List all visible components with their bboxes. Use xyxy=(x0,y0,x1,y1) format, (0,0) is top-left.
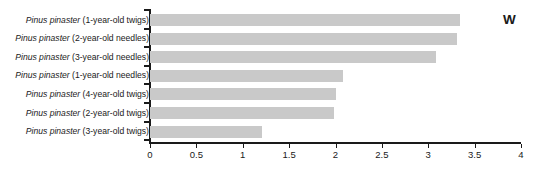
x-axis-tick-label: 2.5 xyxy=(375,149,388,160)
bar xyxy=(150,51,436,63)
x-axis-tick-label: 0.5 xyxy=(190,149,203,160)
category-qualifier: (2-year-old needles) xyxy=(70,33,149,43)
bar xyxy=(150,14,460,26)
x-axis-tick xyxy=(336,144,337,148)
x-axis-tick-label: 1 xyxy=(240,149,245,160)
x-axis-tick xyxy=(382,144,383,148)
species-name: Pinus pinaster xyxy=(26,108,80,118)
category-qualifier: (1-year-old twigs) xyxy=(80,15,149,25)
x-axis-tick xyxy=(521,144,522,148)
species-name: Pinus pinaster xyxy=(15,70,69,80)
category-qualifier: (2-year-old twigs) xyxy=(80,108,149,118)
species-name: Pinus pinaster xyxy=(15,33,69,43)
x-axis-tick-label: 3 xyxy=(426,149,431,160)
category-qualifier: (4-year-old twigs) xyxy=(80,89,149,99)
category-label: Pinus pinaster (3-year-old needles) xyxy=(15,52,149,62)
x-axis-tick xyxy=(243,144,244,148)
x-axis-tick xyxy=(196,144,197,148)
x-axis-tick xyxy=(150,144,151,148)
bar xyxy=(150,70,343,82)
category-qualifier: (3-year-old needles) xyxy=(70,52,149,62)
x-axis-tick-label: 4 xyxy=(518,149,523,160)
panel-label: W xyxy=(503,12,516,27)
bar xyxy=(150,33,457,45)
x-axis-tick xyxy=(428,144,429,148)
x-axis-tick-label: 1.5 xyxy=(283,149,296,160)
bar xyxy=(150,126,262,138)
species-name: Pinus pinaster xyxy=(26,15,80,25)
species-name: Pinus pinaster xyxy=(26,89,80,99)
x-axis-tick-label: 0 xyxy=(147,149,152,160)
category-label: Pinus pinaster (2-year-old needles) xyxy=(15,33,149,43)
x-axis-tick-label: 3.5 xyxy=(468,149,481,160)
species-name: Pinus pinaster xyxy=(15,52,69,62)
species-name: Pinus pinaster xyxy=(26,126,80,136)
bar xyxy=(150,107,334,119)
bar xyxy=(150,88,336,100)
bar-chart-figure: Pinus pinaster (1-year-old twigs)Pinus p… xyxy=(0,0,533,169)
category-label: Pinus pinaster (3-year-old twigs) xyxy=(26,126,149,136)
category-label: Pinus pinaster (1-year-old needles) xyxy=(15,70,149,80)
category-label: Pinus pinaster (2-year-old twigs) xyxy=(26,108,149,118)
x-axis-tick xyxy=(475,144,476,148)
category-label: Pinus pinaster (4-year-old twigs) xyxy=(26,89,149,99)
x-axis-tick-label: 2 xyxy=(333,149,338,160)
bars-container xyxy=(150,8,521,142)
category-qualifier: (3-year-old twigs) xyxy=(80,126,149,136)
category-label: Pinus pinaster (1-year-old twigs) xyxy=(26,15,149,25)
x-axis-tick xyxy=(289,144,290,148)
category-qualifier: (1-year-old needles) xyxy=(70,70,149,80)
